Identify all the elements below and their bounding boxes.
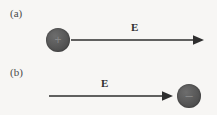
minus-sign-icon: – [185,89,192,102]
plus-sign-icon: + [54,34,61,46]
panel-label-b: (b) [10,67,23,78]
field-label-b: E [101,78,108,89]
panel-label-a: (a) [10,8,22,19]
field-arrow-a [70,32,205,48]
field-label-a: E [131,22,138,33]
negative-charge-circle: – [177,84,201,108]
field-arrow-b [48,88,174,104]
electric-field-charge-diagram: (a) + E (b) E – [0,0,217,115]
positive-charge-circle: + [46,28,70,52]
